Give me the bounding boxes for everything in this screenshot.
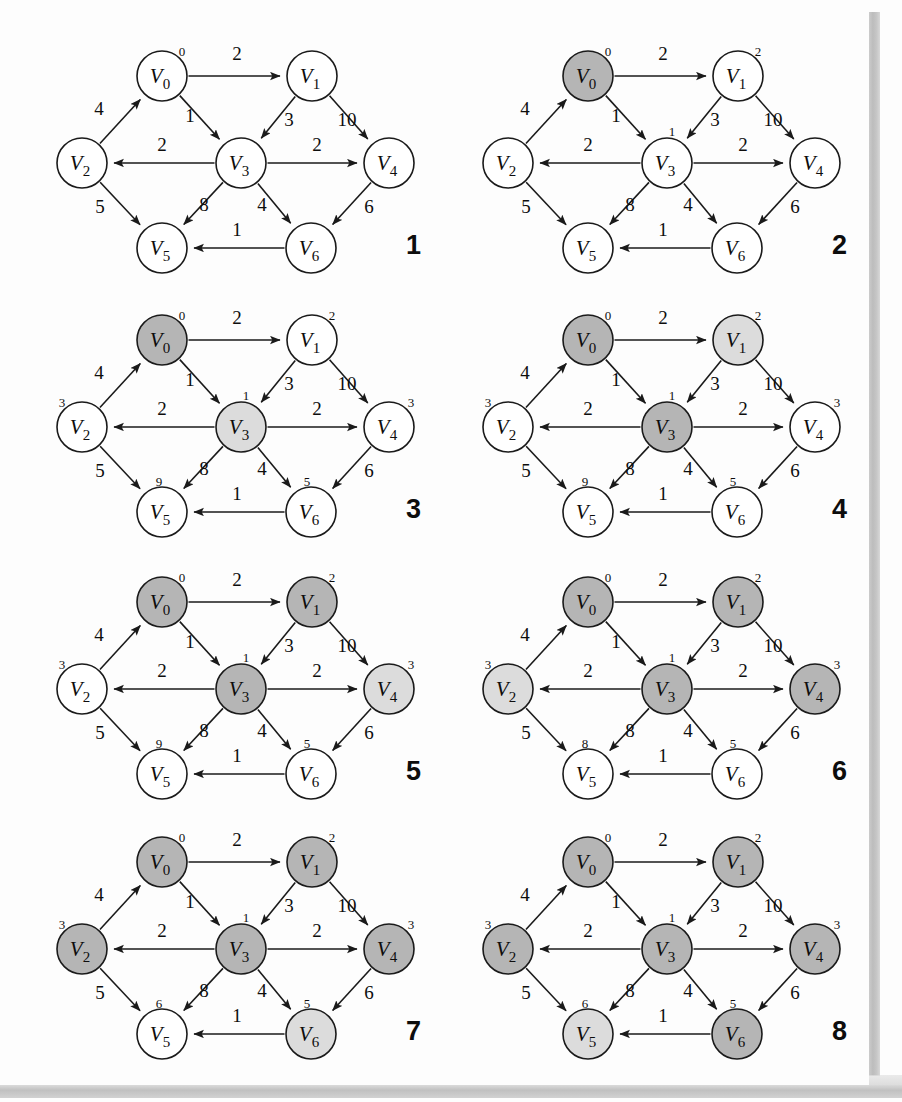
edge-weight-v3-v2: 2 — [583, 134, 593, 155]
distance-label-v1: 2 — [329, 830, 336, 845]
edge-weight-v6-v5: 1 — [658, 219, 668, 240]
edge-weight-v6-v5: 1 — [658, 483, 668, 504]
edge-weight-v6-v5: 1 — [232, 745, 242, 766]
edge-weight-v1-v3: 3 — [710, 109, 720, 130]
distance-label-v0: 0 — [179, 308, 186, 323]
panel-grid: 2143102258461V00V1V2V3V4V5V6121431022584… — [0, 0, 902, 1102]
edge-weight-v3-v4: 2 — [738, 660, 748, 681]
edge-weight-v0-v1: 2 — [658, 43, 668, 64]
edge-weight-v1-v4: 10 — [338, 895, 357, 916]
edge-v2-to-v5 — [100, 968, 140, 1010]
edge-v2-to-v0 — [526, 626, 566, 670]
edge-weight-v3-v4: 2 — [312, 398, 322, 419]
edge-weight-v4-v6: 6 — [790, 722, 800, 743]
edge-weight-v3-v6: 4 — [257, 458, 267, 479]
panel-number: 8 — [832, 1016, 847, 1047]
distance-label-v3: 1 — [669, 388, 676, 403]
edge-weight-v2-v0: 4 — [94, 98, 104, 119]
edge-weight-v2-v5: 5 — [95, 196, 105, 217]
edge-weight-v0-v3: 1 — [611, 369, 621, 390]
edge-weight-v0-v1: 2 — [232, 43, 242, 64]
edge-weight-v2-v5: 5 — [95, 460, 105, 481]
edge-weight-v3-v5: 8 — [625, 458, 635, 479]
distance-label-v3: 1 — [669, 124, 676, 139]
figure-page: 2143102258461V00V1V2V3V4V5V6121431022584… — [0, 0, 902, 1102]
graph-panel-2: 2143102258461V00V12V2V31V4V5V62 — [440, 8, 870, 276]
distance-label-v2: 3 — [59, 657, 66, 672]
edge-weight-v2-v0: 4 — [520, 98, 530, 119]
distance-label-v1: 2 — [755, 308, 762, 323]
edge-weight-v3-v2: 2 — [157, 660, 167, 681]
edge-v2-to-v0 — [526, 364, 566, 408]
edge-weight-v0-v1: 2 — [232, 569, 242, 590]
edge-weight-v0-v1: 2 — [658, 307, 668, 328]
distance-label-v6: 5 — [304, 736, 311, 751]
page-edge-vertical — [869, 12, 880, 1076]
distance-label-v2: 3 — [59, 917, 66, 932]
edge-v2-to-v5 — [526, 968, 566, 1010]
edge-weight-v2-v5: 5 — [521, 460, 531, 481]
distance-label-v3: 1 — [669, 650, 676, 665]
edge-v2-to-v5 — [526, 446, 566, 488]
page-edge-horizontal — [0, 1085, 902, 1098]
edge-weight-v4-v6: 6 — [790, 196, 800, 217]
edge-weight-v2-v0: 4 — [520, 624, 530, 645]
edge-weight-v0-v3: 1 — [185, 369, 195, 390]
graph-panel-3: 2143102258461V00V12V23V31V43V59V653 — [14, 272, 444, 540]
distance-label-v1: 2 — [755, 570, 762, 585]
edge-weight-v6-v5: 1 — [232, 483, 242, 504]
edge-v2-to-v0 — [100, 626, 140, 670]
edge-weight-v3-v2: 2 — [583, 398, 593, 419]
distance-label-v0: 0 — [179, 44, 186, 59]
edge-weight-v2-v5: 5 — [521, 982, 531, 1003]
edge-weight-v1-v3: 3 — [710, 635, 720, 656]
panel-number: 3 — [406, 494, 421, 525]
distance-label-v6: 5 — [304, 996, 311, 1011]
edge-v2-to-v0 — [526, 100, 566, 144]
edge-weight-v4-v6: 6 — [790, 460, 800, 481]
graph-panel-8: 2143102258461V00V12V23V31V43V56V658 — [440, 794, 870, 1062]
distance-label-v4: 3 — [408, 657, 415, 672]
panel-number: 5 — [406, 756, 421, 787]
distance-label-v5: 8 — [582, 736, 589, 751]
graph-panel-4: 2143102258461V00V12V23V31V43V59V654 — [440, 272, 870, 540]
edge-weight-v2-v5: 5 — [95, 722, 105, 743]
edge-weight-v3-v5: 8 — [625, 194, 635, 215]
edge-weight-v3-v6: 4 — [683, 194, 693, 215]
edge-weight-v2-v0: 4 — [94, 624, 104, 645]
edge-weight-v3-v6: 4 — [683, 980, 693, 1001]
edge-weight-v3-v4: 2 — [312, 134, 322, 155]
edge-weight-v4-v6: 6 — [364, 982, 374, 1003]
edge-weight-v1-v4: 10 — [764, 109, 783, 130]
edge-weight-v3-v2: 2 — [157, 398, 167, 419]
panel-number: 6 — [832, 756, 847, 787]
distance-label-v6: 5 — [730, 996, 737, 1011]
distance-label-v5: 9 — [156, 736, 163, 751]
edge-weight-v2-v5: 5 — [95, 982, 105, 1003]
panel-number: 7 — [406, 1016, 421, 1047]
edge-weight-v1-v3: 3 — [284, 373, 294, 394]
edge-weight-v6-v5: 1 — [232, 219, 242, 240]
edge-weight-v2-v0: 4 — [94, 362, 104, 383]
edge-weight-v2-v0: 4 — [520, 362, 530, 383]
edge-weight-v3-v5: 8 — [625, 980, 635, 1001]
edge-weight-v0-v3: 1 — [611, 105, 621, 126]
distance-label-v2: 3 — [59, 395, 66, 410]
distance-label-v6: 5 — [304, 474, 311, 489]
edge-weight-v3-v5: 8 — [199, 980, 209, 1001]
edge-weight-v3-v6: 4 — [257, 980, 267, 1001]
graph-panel-7: 2143102258461V00V12V23V31V43V56V657 — [14, 794, 444, 1062]
edge-weight-v2-v5: 5 — [521, 196, 531, 217]
distance-label-v5: 9 — [156, 474, 163, 489]
edge-weight-v3-v2: 2 — [583, 920, 593, 941]
distance-label-v4: 3 — [834, 917, 841, 932]
edge-v2-to-v0 — [100, 364, 140, 408]
edge-weight-v0-v3: 1 — [185, 631, 195, 652]
edge-weight-v0-v1: 2 — [658, 829, 668, 850]
distance-label-v1: 2 — [329, 570, 336, 585]
edge-weight-v3-v2: 2 — [157, 134, 167, 155]
edge-weight-v3-v5: 8 — [625, 720, 635, 741]
edge-v2-to-v5 — [526, 708, 566, 750]
edge-weight-v3-v2: 2 — [157, 920, 167, 941]
edge-v2-to-v5 — [100, 182, 140, 224]
